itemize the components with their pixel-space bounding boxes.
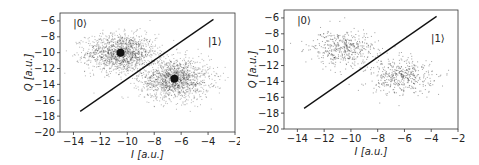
y-tick-label: −12 — [34, 63, 55, 74]
y-tick-label: −14 — [258, 76, 279, 87]
x-tick-label: −10 — [340, 133, 361, 144]
y-tick-label: −8 — [40, 31, 55, 42]
y-tick-label: −18 — [34, 111, 55, 122]
x-tick-label: −6 — [397, 133, 412, 144]
x-axis-label: I [a.u.] — [131, 149, 164, 160]
state-annotation: |1⟩ — [208, 36, 222, 48]
x-tick-label: −6 — [174, 136, 189, 147]
state-annotation: |0⟩ — [73, 18, 87, 30]
scatter-points — [290, 17, 449, 106]
axes-frame — [60, 13, 235, 132]
y-tick-label: −10 — [34, 47, 55, 58]
scatter-plot-right: −14−12−10−8−6−4−2−6−8−10−12−14−16−18−20I… — [225, 0, 479, 165]
x-tick-label: −10 — [117, 136, 138, 147]
y-tick-label: −12 — [258, 60, 279, 71]
x-tick-label: −12 — [90, 136, 111, 147]
y-tick-label: −14 — [34, 79, 55, 90]
scatter-points — [50, 20, 239, 112]
x-tick-label: −4 — [201, 136, 216, 147]
x-tick-label: −14 — [287, 133, 308, 144]
y-tick-label: −6 — [40, 15, 55, 26]
x-axis-label: I [a.u.] — [355, 146, 388, 157]
centroid-marker — [170, 75, 178, 83]
scatter-plot-left: −14−12−10−8−6−4−2−6−8−10−12−14−16−18−20I… — [0, 0, 240, 165]
x-tick-label: −2 — [451, 133, 466, 144]
x-tick-label: −8 — [370, 133, 385, 144]
x-tick-label: −14 — [63, 136, 84, 147]
state-annotation: |1⟩ — [431, 33, 445, 45]
y-axis-label: Q [a.u.] — [247, 51, 258, 89]
y-tick-label: −16 — [258, 92, 279, 103]
y-tick-label: −20 — [34, 127, 55, 138]
y-tick-label: −10 — [258, 44, 279, 55]
centroid-marker — [117, 49, 125, 57]
y-tick-label: −20 — [258, 124, 279, 135]
plot-right: −14−12−10−8−6−4−2−6−8−10−12−14−16−18−20I… — [225, 0, 465, 165]
x-tick-label: −4 — [424, 133, 439, 144]
y-axis-label: Q [a.u.] — [23, 54, 34, 92]
y-tick-label: −8 — [264, 28, 279, 39]
x-tick-label: −12 — [314, 133, 335, 144]
x-tick-label: −8 — [147, 136, 162, 147]
plot-left: −14−12−10−8−6−4−2−6−8−10−12−14−16−18−20I… — [0, 0, 240, 165]
y-tick-label: −18 — [258, 108, 279, 119]
state-annotation: |0⟩ — [297, 15, 311, 27]
y-tick-label: −16 — [34, 95, 55, 106]
y-tick-label: −6 — [264, 12, 279, 23]
decision-boundary-line — [304, 16, 437, 108]
